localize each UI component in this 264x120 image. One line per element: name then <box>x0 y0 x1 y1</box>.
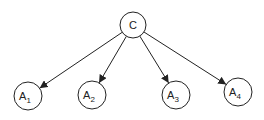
nodes: CA1A2A3A4 <box>14 12 252 110</box>
edge-c-a4-arrow <box>144 32 226 84</box>
edge-c-a1-arrow <box>40 32 123 88</box>
edge-c-a3-arrow <box>140 36 169 83</box>
node-c: C <box>120 12 146 38</box>
edge-c-a2-arrow <box>99 36 126 83</box>
edges <box>40 32 227 88</box>
node-a1: A1 <box>14 82 42 110</box>
node-a2: A2 <box>78 81 106 109</box>
node-label: C <box>129 19 137 31</box>
tree-diagram: CA1A2A3A4 <box>0 0 264 120</box>
node-a4: A4 <box>224 78 252 106</box>
node-a3: A3 <box>162 81 190 109</box>
